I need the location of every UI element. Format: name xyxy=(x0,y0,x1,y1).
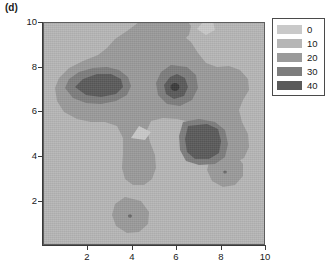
y-tick-mark-8 xyxy=(38,67,42,68)
legend-label-30: 30 xyxy=(307,67,318,77)
x-tick-mark-6 xyxy=(176,246,177,250)
legend-label-10: 10 xyxy=(307,39,318,49)
y-tick-mark-10 xyxy=(38,22,42,23)
figure-panel: (d) xyxy=(0,0,330,275)
legend-label-0: 0 xyxy=(307,25,312,35)
contour-field xyxy=(43,22,265,245)
x-tick-label-2: 2 xyxy=(74,252,100,262)
y-tick-label-10: 10 xyxy=(13,17,37,27)
y-tick-mark-4 xyxy=(38,156,42,157)
legend-entry-40: 40 xyxy=(277,79,321,92)
legend-swatch-10 xyxy=(277,39,302,48)
x-tick-label-6: 6 xyxy=(163,252,189,262)
legend-swatch-30 xyxy=(277,67,302,76)
y-tick-label-2: 2 xyxy=(13,196,37,206)
x-tick-mark-10 xyxy=(265,246,266,250)
y-tick-label-6: 6 xyxy=(13,106,37,116)
y-tick-mark-6 xyxy=(38,111,42,112)
legend-entries: 0 10 20 30 40 xyxy=(277,23,321,91)
contour-plot-area xyxy=(43,22,265,245)
x-tick-mark-2 xyxy=(87,246,88,250)
x-tick-mark-4 xyxy=(132,246,133,250)
y-tick-label-8: 8 xyxy=(13,62,37,72)
legend-swatch-40 xyxy=(277,81,302,90)
legend-entry-10: 10 xyxy=(277,37,321,50)
legend-box: 0 10 20 30 40 xyxy=(272,18,325,96)
legend-label-40: 40 xyxy=(307,81,318,91)
x-tick-mark-8 xyxy=(221,246,222,250)
y-tick-label-4: 4 xyxy=(13,151,37,161)
legend-label-20: 20 xyxy=(307,53,318,63)
legend-entry-20: 20 xyxy=(277,51,321,64)
legend-entry-30: 30 xyxy=(277,65,321,78)
x-tick-label-8: 8 xyxy=(208,252,234,262)
x-axis-line xyxy=(42,245,266,246)
legend-swatch-20 xyxy=(277,53,302,62)
x-tick-label-10: 10 xyxy=(252,252,278,262)
x-tick-label-4: 4 xyxy=(119,252,145,262)
panel-label: (d) xyxy=(5,2,18,13)
legend-entry-0: 0 xyxy=(277,23,321,36)
y-tick-mark-2 xyxy=(38,201,42,202)
legend-swatch-0 xyxy=(277,25,302,34)
y-axis-line xyxy=(42,22,43,246)
